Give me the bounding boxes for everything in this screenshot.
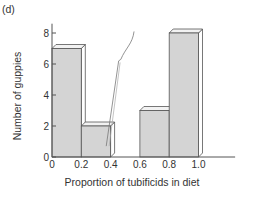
y-axis-label: Number of guppies <box>11 52 23 141</box>
x-axis-label: Proportion of tubificids in diet <box>65 176 200 188</box>
bar-top-face <box>140 107 173 111</box>
y-tick-label: 8 <box>43 28 49 39</box>
x-ticks-group: 00.20.40.60.81.0 <box>49 159 206 170</box>
bar-front-face <box>140 111 169 158</box>
bar-front-face <box>169 33 198 157</box>
bar-side-face <box>199 29 203 157</box>
bar-1 <box>81 122 114 157</box>
bar-3 <box>140 107 173 158</box>
bar-front-face <box>81 126 110 157</box>
bar-4 <box>169 29 202 157</box>
y-tick-label: 6 <box>43 59 49 70</box>
bar-side-face <box>111 122 115 157</box>
bar-0 <box>52 45 85 158</box>
histogram-chart: (d) 02468 00.20.40.60.81.0 Number of gup… <box>0 0 260 198</box>
x-tick-label: 0 <box>49 159 55 170</box>
x-tick-label: 0.4 <box>104 159 118 170</box>
bar-top-face <box>169 29 202 33</box>
panel-label: (d) <box>2 3 15 15</box>
x-tick-label: 0.6 <box>133 159 147 170</box>
x-tick-label: 1.0 <box>192 159 206 170</box>
y-tick-label: 2 <box>43 121 49 132</box>
x-tick-label: 0.2 <box>74 159 88 170</box>
x-tick-label: 0.8 <box>162 159 176 170</box>
bar-top-face <box>52 45 85 49</box>
y-tick-label: 4 <box>43 90 49 101</box>
bar-front-face <box>52 49 81 158</box>
